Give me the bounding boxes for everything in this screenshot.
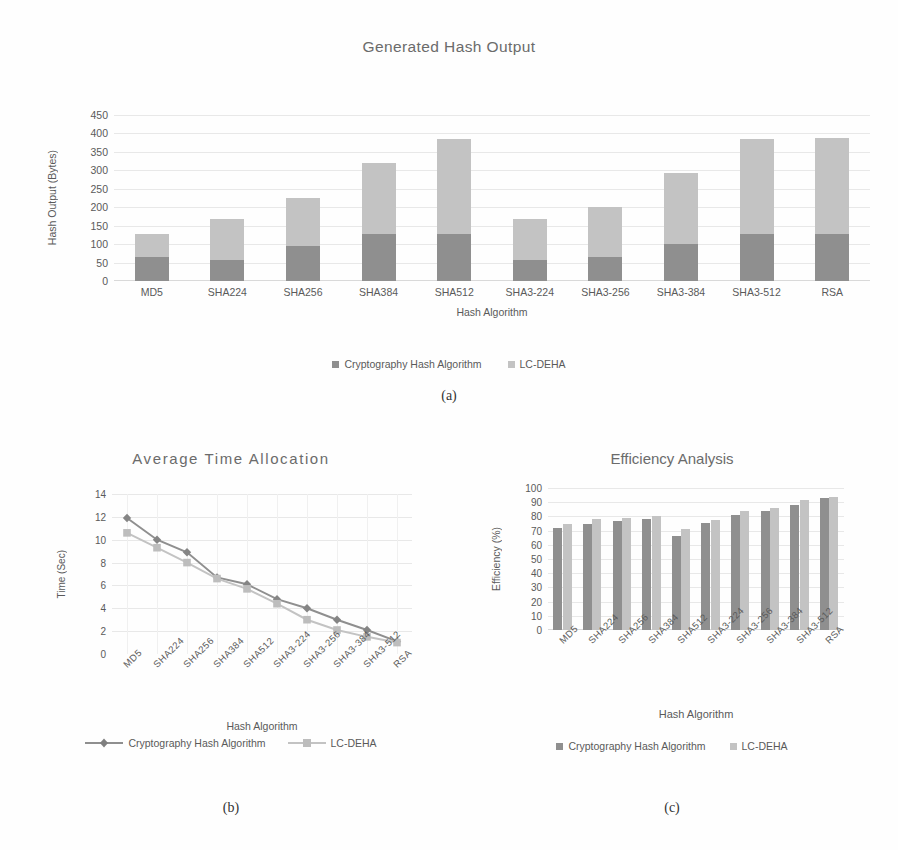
chart-b-legend-item-series2: LC-DEHA bbox=[288, 737, 377, 749]
bar-segment-cryptography-hash-algorithm bbox=[588, 257, 622, 281]
bar-md5-cryptography-hash-algorithm[interactable] bbox=[553, 528, 562, 630]
bar-segment-lc-deha bbox=[135, 234, 169, 258]
stacked-bar-sha256[interactable] bbox=[286, 198, 320, 281]
stacked-bar-sha3-224[interactable] bbox=[513, 219, 547, 281]
y-axis-tick: 100 bbox=[525, 483, 542, 494]
legend-line-marker-series2 bbox=[288, 738, 326, 748]
bar-sha3-224-lc-deha[interactable] bbox=[711, 520, 720, 630]
stacked-bar-sha3-256[interactable] bbox=[588, 207, 622, 281]
x-axis-tick: SHA384 bbox=[341, 286, 417, 298]
x-axis-tick: MD5 bbox=[114, 286, 190, 298]
chart-b-legend-label-series1: Cryptography Hash Algorithm bbox=[128, 737, 265, 749]
caption-c: (c) bbox=[452, 800, 892, 816]
bar-segment-lc-deha bbox=[286, 198, 320, 245]
stacked-bar-rsa[interactable] bbox=[815, 138, 849, 281]
bar-segment-lc-deha bbox=[437, 139, 471, 233]
y-axis-tick: 250 bbox=[90, 183, 108, 195]
y-axis-tick: 0 bbox=[536, 625, 542, 636]
stacked-bar-sha224[interactable] bbox=[210, 219, 244, 281]
bar-md5-lc-deha[interactable] bbox=[563, 524, 572, 631]
bar-sha384-lc-deha[interactable] bbox=[652, 516, 661, 630]
chart-a-y-axis-title-wrap: Hash Output (Bytes) bbox=[46, 115, 58, 281]
y-axis-tick: 0 bbox=[100, 649, 106, 660]
bar-segment-cryptography-hash-algorithm bbox=[740, 234, 774, 281]
y-axis-tick: 10 bbox=[531, 610, 542, 621]
data-point-marker[interactable] bbox=[303, 604, 311, 612]
chart-b-legend-label-series2: LC-DEHA bbox=[331, 737, 377, 749]
stacked-bar-sha512[interactable] bbox=[437, 139, 471, 281]
figure-page: Generated Hash Output Hash Output (Bytes… bbox=[0, 0, 898, 850]
bar-segment-lc-deha bbox=[588, 207, 622, 257]
y-axis-tick: 40 bbox=[531, 568, 542, 579]
y-axis-tick: 150 bbox=[90, 220, 108, 232]
bar-slot bbox=[114, 115, 190, 281]
bar-slot bbox=[568, 115, 644, 281]
bar-segment-cryptography-hash-algorithm bbox=[513, 260, 547, 281]
bar-sha256-lc-deha[interactable] bbox=[622, 518, 631, 630]
y-axis-tick: 60 bbox=[531, 539, 542, 550]
bar-slot bbox=[341, 115, 417, 281]
chart-a-y-axis-title: Hash Output (Bytes) bbox=[46, 150, 58, 245]
chart-b-legend: Cryptography Hash Algorithm LC-DEHA bbox=[16, 737, 446, 749]
stacked-bar-sha3-384[interactable] bbox=[664, 173, 698, 281]
chart-c-y-axis-title-wrap: Efficiency (%) bbox=[490, 488, 502, 630]
bar-slot bbox=[719, 115, 795, 281]
y-axis-tick: 80 bbox=[531, 511, 542, 522]
chart-a-legend-item-series2: LC-DEHA bbox=[508, 358, 566, 370]
chart-c-legend-item-series2: LC-DEHA bbox=[730, 740, 788, 752]
bar-segment-cryptography-hash-algorithm bbox=[286, 246, 320, 281]
caption-b: (b) bbox=[16, 800, 446, 816]
stacked-bar-sha3-512[interactable] bbox=[740, 139, 774, 281]
y-axis-tick: 30 bbox=[531, 582, 542, 593]
y-axis-tick: 400 bbox=[90, 127, 108, 139]
chart-a-legend-item-series1: Cryptography Hash Algorithm bbox=[332, 358, 481, 370]
bar-segment-cryptography-hash-algorithm bbox=[362, 234, 396, 281]
chart-c-title: Efficiency Analysis bbox=[452, 450, 892, 467]
y-axis-tick: 14 bbox=[95, 489, 106, 500]
chart-a-legend-label-series2: LC-DEHA bbox=[520, 358, 566, 370]
bar-segment-lc-deha bbox=[513, 219, 547, 260]
y-axis-tick: 450 bbox=[90, 109, 108, 121]
bar-sha224-cryptography-hash-algorithm[interactable] bbox=[583, 524, 592, 631]
stacked-bar-md5[interactable] bbox=[135, 234, 169, 281]
data-point-marker[interactable] bbox=[183, 559, 191, 567]
bar-sha512-lc-deha[interactable] bbox=[681, 529, 690, 630]
stacked-bar-sha384[interactable] bbox=[362, 163, 396, 281]
chart-a-plot-area bbox=[114, 115, 870, 281]
data-point-marker[interactable] bbox=[333, 616, 341, 624]
chart-c-legend: Cryptography Hash Algorithm LC-DEHA bbox=[452, 740, 892, 752]
x-axis-tick: SHA3-512 bbox=[719, 286, 795, 298]
bar-slot bbox=[416, 115, 492, 281]
chart-a-title: Generated Hash Output bbox=[18, 38, 880, 56]
chart-b-title: Average Time Allocation bbox=[16, 450, 446, 467]
bar-segment-cryptography-hash-algorithm bbox=[815, 234, 849, 281]
chart-c-legend-label-series1: Cryptography Hash Algorithm bbox=[568, 740, 705, 752]
x-axis-tick: SHA512 bbox=[416, 286, 492, 298]
chart-c-y-axis-title: Efficiency (%) bbox=[490, 527, 502, 591]
bar-sha224-lc-deha[interactable] bbox=[592, 519, 601, 630]
data-point-marker[interactable] bbox=[153, 544, 161, 552]
bar-segment-lc-deha bbox=[664, 173, 698, 244]
data-point-marker[interactable] bbox=[123, 529, 131, 537]
chart-a-x-axis-title: Hash Algorithm bbox=[114, 306, 870, 318]
caption-a: (a) bbox=[0, 388, 898, 404]
data-point-marker[interactable] bbox=[213, 575, 221, 583]
y-axis-tick: 2 bbox=[100, 626, 106, 637]
chart-generated-hash-output: Generated Hash Output Hash Output (Bytes… bbox=[18, 22, 880, 332]
x-axis-tick: SHA224 bbox=[190, 286, 266, 298]
chart-b-y-axis-title: Time (Sec) bbox=[56, 550, 67, 599]
chart-c-x-axis-title: Hash Algorithm bbox=[548, 708, 844, 720]
data-point-marker[interactable] bbox=[303, 616, 311, 624]
chart-efficiency-analysis: Efficiency Analysis Efficiency (%) Hash … bbox=[452, 440, 892, 830]
data-point-marker[interactable] bbox=[273, 600, 281, 608]
chart-a-legend-label-series1: Cryptography Hash Algorithm bbox=[344, 358, 481, 370]
x-axis-tick: SHA3-384 bbox=[643, 286, 719, 298]
bar-slot bbox=[643, 115, 719, 281]
bar-segment-lc-deha bbox=[210, 219, 244, 260]
data-point-marker[interactable] bbox=[243, 585, 251, 593]
x-axis-tick: RSA bbox=[794, 286, 870, 298]
y-axis-tick: 350 bbox=[90, 146, 108, 158]
bar-segment-lc-deha bbox=[815, 138, 849, 234]
gridline bbox=[548, 488, 844, 489]
bar-segment-cryptography-hash-algorithm bbox=[135, 257, 169, 281]
